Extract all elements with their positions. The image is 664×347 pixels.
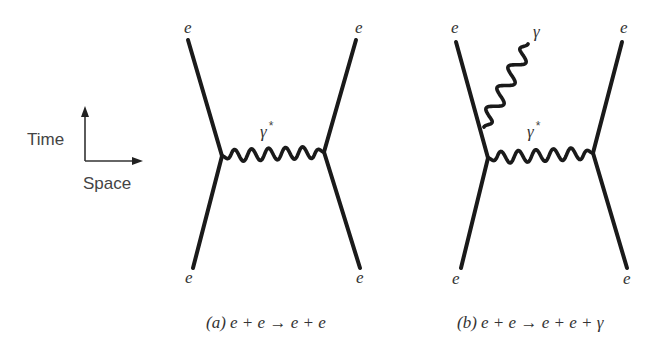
virtual-photon-line <box>222 147 324 161</box>
electron-label: e <box>451 18 459 37</box>
space-arrowhead-icon <box>132 157 143 165</box>
virtual-photon-label: γ* <box>527 119 541 141</box>
electron-line <box>188 40 222 156</box>
electron-line <box>593 153 627 268</box>
virtual-photon-label: γ* <box>260 119 274 141</box>
electron-line <box>193 156 222 268</box>
electron-label: e <box>185 268 193 287</box>
feynman-diagram-figure: Time Space eeeeγ*(a) e + e → e + e eeeeγ… <box>0 0 664 347</box>
virtual-photon-line <box>488 148 593 163</box>
electron-line <box>593 42 622 153</box>
spacetime-axes: Time Space <box>27 106 143 193</box>
diagram-a-electron-scattering: eeeeγ*(a) e + e → e + e <box>184 18 364 332</box>
space-axis-label: Space <box>83 174 131 193</box>
time-arrowhead-icon <box>81 106 89 117</box>
electron-label: e <box>184 18 192 37</box>
real-photon-line <box>484 44 528 127</box>
diagram-caption: (a) e + e → e + e <box>206 313 326 332</box>
electron-line <box>456 42 488 158</box>
electron-label: e <box>620 18 628 37</box>
electron-label: e <box>452 269 460 288</box>
electron-label: e <box>355 18 363 37</box>
photon-label: γ <box>533 22 541 41</box>
diagram-b-bremsstrahlung: eeeeγ*γ(b) e + e → e + e + γ <box>451 18 631 332</box>
time-axis-label: Time <box>27 130 64 149</box>
electron-label: e <box>623 269 631 288</box>
electron-line <box>461 158 488 268</box>
electron-line <box>324 40 356 152</box>
diagram-caption: (b) e + e → e + e + γ <box>457 313 605 332</box>
electron-line <box>324 152 360 268</box>
electron-label: e <box>356 268 364 287</box>
